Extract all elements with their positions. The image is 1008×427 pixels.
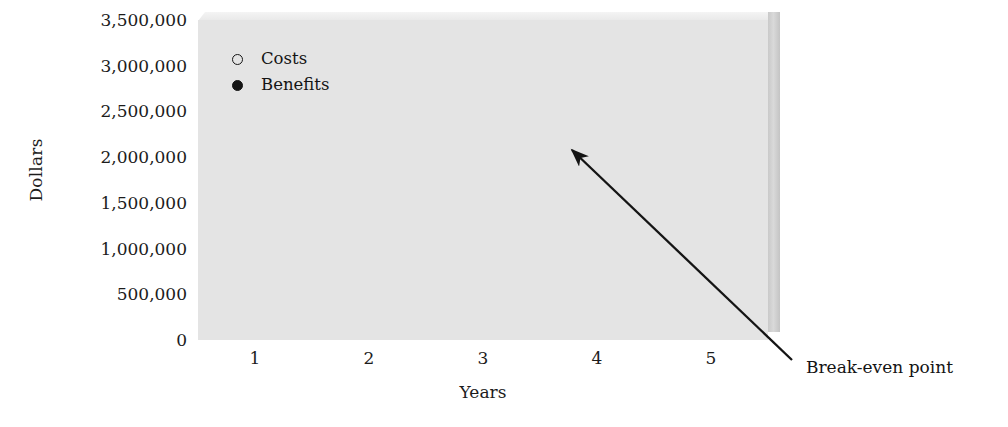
y-tick-label: 3,500,000	[57, 12, 187, 29]
break-even-annotation-label: Break-even point	[806, 357, 953, 377]
y-axis-tick-labels: 3,500,0003,000,0002,500,0002,000,0001,50…	[55, 0, 187, 427]
open-circle-marker-icon	[232, 54, 243, 65]
y-tick-label: 1,500,000	[57, 195, 187, 212]
x-axis-title: Years	[198, 382, 768, 402]
y-tick-label: 3,000,000	[57, 58, 187, 75]
legend-item-label: Benefits	[261, 72, 329, 98]
legend-item-label: Costs	[261, 46, 307, 72]
filled-circle-marker-icon	[232, 80, 243, 91]
x-tick-label: 3	[463, 348, 503, 368]
x-tick-label: 5	[691, 348, 731, 368]
y-tick-label: 2,500,000	[57, 103, 187, 120]
plot-right-wall	[768, 12, 780, 332]
x-tick-label: 4	[577, 348, 617, 368]
legend-item-costs[interactable]: Costs	[232, 46, 329, 72]
y-tick-label: 500,000	[57, 286, 187, 303]
y-tick-label: 2,000,000	[57, 149, 187, 166]
y-tick-label: 0	[57, 332, 187, 349]
chart-figure: Dollars 3,500,0003,000,0002,500,0002,000…	[0, 0, 1008, 427]
y-axis-title: Dollars	[26, 120, 46, 220]
x-tick-label: 1	[235, 348, 275, 368]
y-tick-label: 1,000,000	[57, 241, 187, 258]
x-tick-label: 2	[349, 348, 389, 368]
legend-item-benefits[interactable]: Benefits	[232, 72, 329, 98]
chart-legend: CostsBenefits	[232, 46, 329, 98]
